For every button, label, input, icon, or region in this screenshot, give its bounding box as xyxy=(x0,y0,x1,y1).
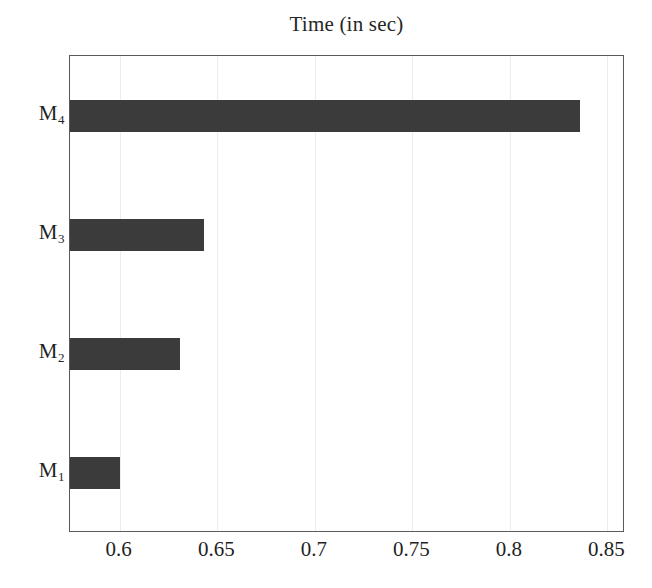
x-tick-0.6: 0.6 xyxy=(106,537,132,562)
x-gridline xyxy=(607,56,608,531)
bar-M3 xyxy=(70,219,204,251)
y-tick-M2: M2 xyxy=(4,339,64,364)
y-tick-M3: M3 xyxy=(4,220,64,245)
x-axis-tick-labels: 0.60.650.70.750.80.85 xyxy=(0,537,652,577)
chart-title: Time (in sec) xyxy=(69,12,624,37)
x-tick-0.65: 0.65 xyxy=(198,537,235,562)
bar-M1 xyxy=(70,457,120,489)
bar-M4 xyxy=(70,100,580,132)
chart-figure: Time (in sec) M1M2M3M4 0.60.650.70.750.8… xyxy=(0,0,652,588)
x-tick-0.7: 0.7 xyxy=(301,537,327,562)
y-tick-M1: M1 xyxy=(4,458,64,483)
x-tick-0.75: 0.75 xyxy=(393,537,430,562)
x-tick-0.8: 0.8 xyxy=(496,537,522,562)
x-tick-0.85: 0.85 xyxy=(588,537,625,562)
y-axis-tick-labels: M1M2M3M4 xyxy=(0,55,64,532)
y-tick-M4: M4 xyxy=(4,101,64,126)
plot-area xyxy=(69,55,624,532)
bar-M2 xyxy=(70,338,180,370)
